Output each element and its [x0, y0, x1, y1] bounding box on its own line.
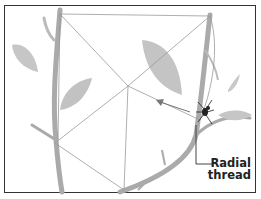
radial-thread-label: Radial thread: [208, 157, 251, 181]
leaf: [228, 74, 240, 92]
left-plant: [12, 10, 92, 192]
radial-thread-arrow: [156, 99, 190, 112]
label-line-2: thread: [208, 169, 251, 181]
web-threads: [55, 14, 215, 190]
leaf: [60, 78, 92, 110]
leaf: [12, 45, 38, 72]
leaf: [142, 40, 182, 95]
